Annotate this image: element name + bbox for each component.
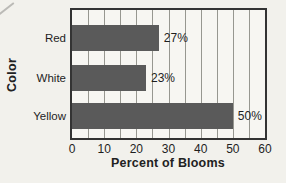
gridline — [233, 10, 234, 138]
x-tick-40: 40 — [194, 142, 207, 156]
x-tick-20: 20 — [130, 142, 143, 156]
bar-chart: Color 27%23%50% RedWhiteYellow 010203040… — [0, 0, 286, 183]
value-label: 27% — [164, 25, 188, 51]
scan-artifact — [0, 2, 14, 16]
x-tick-30: 30 — [162, 142, 175, 156]
bar-white — [72, 65, 146, 91]
bar-yellow — [72, 103, 233, 129]
plot-area: 27%23%50% — [70, 8, 267, 140]
bar-red — [72, 25, 159, 51]
value-label: 50% — [238, 103, 262, 129]
x-tick-60: 60 — [258, 142, 271, 156]
x-tick-0: 0 — [69, 142, 76, 156]
y-axis-title: Color — [5, 58, 19, 92]
x-tick-50: 50 — [226, 142, 239, 156]
x-axis-title: Percent of Blooms — [111, 156, 225, 170]
category-label-yellow: Yellow — [33, 110, 66, 122]
category-label-red: Red — [45, 32, 66, 44]
x-tick-10: 10 — [97, 142, 110, 156]
category-label-white: White — [37, 72, 66, 84]
value-label: 23% — [151, 65, 175, 91]
